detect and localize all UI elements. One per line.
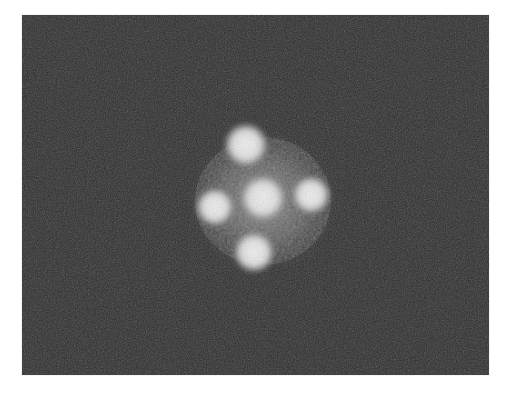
noise-overlay bbox=[22, 15, 489, 375]
photo-frame bbox=[22, 15, 489, 375]
spot-pattern-image bbox=[22, 15, 489, 375]
